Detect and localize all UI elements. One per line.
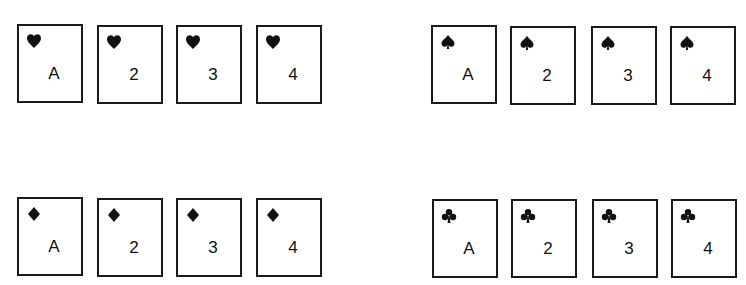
- card-clubs-3: 3: [592, 199, 658, 278]
- card-rank: 3: [593, 66, 655, 86]
- card-spades-2: 2: [510, 26, 576, 105]
- club-icon: [441, 208, 457, 224]
- card-rank: A: [19, 64, 81, 84]
- spade-icon: [679, 35, 695, 51]
- card-hearts-3: 3: [176, 25, 242, 104]
- diamond-icon: [106, 207, 122, 223]
- card-rank: 4: [673, 239, 735, 259]
- card-diamonds-ace: A: [17, 197, 83, 276]
- card-clubs-ace: A: [432, 199, 498, 278]
- card-rank: A: [434, 239, 496, 259]
- card-rank: 2: [99, 238, 161, 258]
- card-rank: 2: [99, 65, 161, 85]
- card-rank: 3: [178, 238, 240, 258]
- card-diamonds-4: 4: [256, 198, 322, 277]
- card-hearts-ace: A: [17, 24, 83, 103]
- heart-icon: [185, 34, 201, 50]
- card-rank: 3: [594, 239, 656, 259]
- card-clubs-2: 2: [511, 199, 577, 278]
- card-rank: 2: [513, 239, 575, 259]
- diamond-icon: [26, 206, 42, 222]
- card-diamonds-2: 2: [97, 198, 163, 277]
- heart-icon: [265, 34, 281, 50]
- card-rank: 4: [672, 66, 734, 86]
- heart-icon: [26, 33, 42, 49]
- spade-icon: [600, 35, 616, 51]
- spade-icon: [519, 35, 535, 51]
- club-icon: [680, 208, 696, 224]
- card-diamonds-3: 3: [176, 198, 242, 277]
- diamond-icon: [185, 207, 201, 223]
- card-spades-ace: A: [431, 25, 497, 104]
- card-clubs-4: 4: [671, 199, 737, 278]
- card-spades-3: 3: [591, 26, 657, 105]
- club-icon: [601, 208, 617, 224]
- card-rank: A: [433, 65, 495, 85]
- card-spades-4: 4: [670, 26, 736, 105]
- card-rank: 4: [258, 238, 320, 258]
- club-icon: [520, 208, 536, 224]
- card-rank: 4: [258, 65, 320, 85]
- card-rank: 3: [178, 65, 240, 85]
- card-rank: 2: [512, 66, 574, 86]
- heart-icon: [106, 34, 122, 50]
- card-hearts-2: 2: [97, 25, 163, 104]
- card-hearts-4: 4: [256, 25, 322, 104]
- diamond-icon: [265, 207, 281, 223]
- spade-icon: [440, 34, 456, 50]
- card-rank: A: [19, 237, 81, 257]
